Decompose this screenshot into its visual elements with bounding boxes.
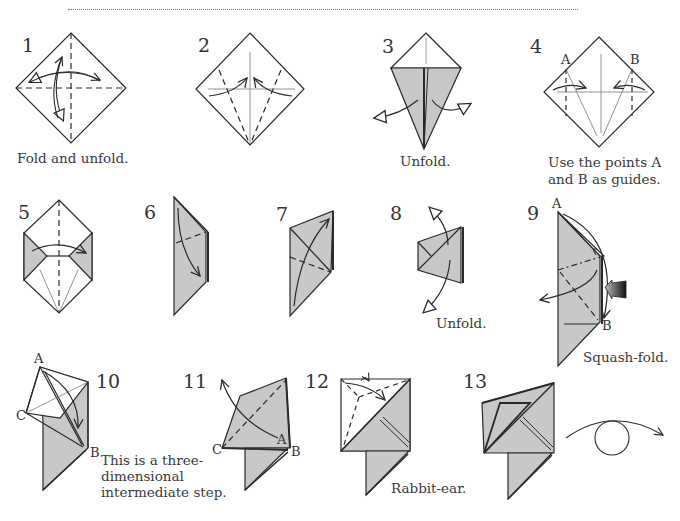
step-number-2: 2 (198, 36, 210, 55)
step-10-caption-line-3: intermediate step. (101, 484, 227, 501)
step-6-figure (174, 197, 208, 315)
step-13-figure (482, 383, 554, 499)
step-number-12: 12 (305, 372, 329, 391)
step-4-caption-line-1: Use the points A (548, 154, 661, 171)
step-8-caption: Unfold. (436, 315, 486, 332)
step-9-label-b: B (602, 319, 612, 332)
origami-diagram: 1 2 3 4 5 6 7 8 9 10 11 12 13 A B A B A … (0, 0, 680, 521)
step-number-3: 3 (382, 37, 394, 56)
step-1-caption: Fold and unfold. (17, 150, 128, 167)
step-9-caption: Squash-fold. (583, 349, 668, 366)
turn-over-arrow-icon (566, 421, 663, 455)
step-4-label-b: B (630, 53, 640, 66)
step-8-figure (418, 208, 463, 312)
step-10-caption-line-2: dimensional (101, 468, 184, 485)
step-4-label-a: A (561, 53, 570, 66)
push-arrow-icon (605, 280, 626, 299)
step-12-figure (341, 378, 410, 496)
step-number-10: 10 (96, 372, 120, 391)
step-number-4: 4 (530, 37, 542, 56)
step-11-label-b: B (291, 445, 301, 458)
step-10-caption-line-1: This is a three- (101, 452, 203, 469)
step-number-6: 6 (144, 203, 156, 222)
step-10-figure (26, 367, 88, 490)
step-11-label-a: A (277, 433, 286, 446)
step-12-caption: Rabbit-ear. (391, 480, 466, 497)
step-9-label-a: A (552, 197, 561, 210)
step-number-1: 1 (22, 36, 34, 55)
step-9-figure (540, 212, 626, 366)
step-number-9: 9 (527, 204, 539, 223)
step-2-figure (196, 33, 304, 145)
step-11-label-c: C (212, 443, 222, 456)
step-10-label-a: A (34, 352, 43, 365)
step-10-label-b: B (90, 446, 100, 459)
step-4-caption-line-2: and B as guides. (548, 171, 661, 188)
step-7-figure (290, 211, 333, 316)
step-3-caption: Unfold. (400, 153, 450, 170)
step-number-5: 5 (18, 203, 30, 222)
step-10-label-c: C (16, 409, 26, 422)
diagram-figures (0, 0, 680, 521)
step-number-11: 11 (183, 372, 207, 391)
step-number-8: 8 (390, 204, 402, 223)
step-number-7: 7 (276, 205, 288, 224)
step-5-figure (24, 200, 92, 313)
step-number-13: 13 (463, 372, 487, 391)
